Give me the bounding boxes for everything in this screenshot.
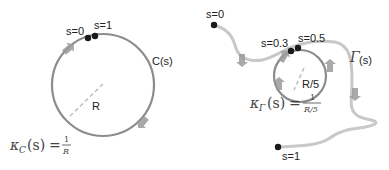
svg-text:R: R — [62, 147, 69, 156]
svg-text:C: C — [19, 145, 26, 155]
open-curve-gamma — [214, 25, 376, 147]
svg-text:=: = — [289, 95, 301, 111]
curve-label-gamma: Γ (s) — [349, 49, 372, 66]
svg-text:(s): (s) — [359, 54, 372, 66]
curvature-formula-right: κ Γ (s) = 1 R/5 — [249, 93, 321, 114]
point-s0 — [211, 22, 217, 28]
point-s1 — [275, 144, 281, 150]
point-s0 — [85, 35, 91, 41]
svg-text:1: 1 — [310, 93, 315, 102]
svg-text:Γ: Γ — [258, 103, 266, 113]
label-s1: s=1 — [282, 150, 300, 162]
svg-text:κ: κ — [9, 137, 19, 153]
svg-text:κ: κ — [249, 95, 259, 111]
label-s0: s=0 — [66, 25, 84, 37]
label-s0: s=0 — [206, 8, 224, 20]
label-s0-3: s=0.3 — [261, 37, 288, 49]
right-panel: s=0 s=0.3 s=0.5 s=1 R/5 Γ (s) κ Γ (s) = … — [206, 8, 376, 162]
svg-text:1: 1 — [64, 135, 69, 144]
label-s1: s=1 — [94, 19, 112, 31]
curvature-formula-left: κ C (s) = 1 R — [9, 135, 71, 156]
point-s1 — [92, 33, 98, 39]
point-s0-5 — [295, 45, 301, 51]
point-s0-3 — [288, 48, 294, 54]
curve-label-c: C(s) — [152, 55, 173, 67]
svg-text:=: = — [49, 137, 61, 153]
label-s0-5: s=0.5 — [298, 32, 325, 44]
diagram-canvas: s=0 s=1 C(s) R κ C (s) = 1 R — [0, 0, 389, 170]
svg-text:(s): (s) — [267, 95, 285, 111]
left-panel: s=0 s=1 C(s) R κ C (s) = 1 R — [9, 19, 173, 156]
svg-text:R/5: R/5 — [303, 105, 318, 114]
radius-label-small: R/5 — [302, 78, 319, 90]
svg-text:(s): (s) — [27, 137, 45, 153]
radius-label: R — [92, 100, 100, 112]
